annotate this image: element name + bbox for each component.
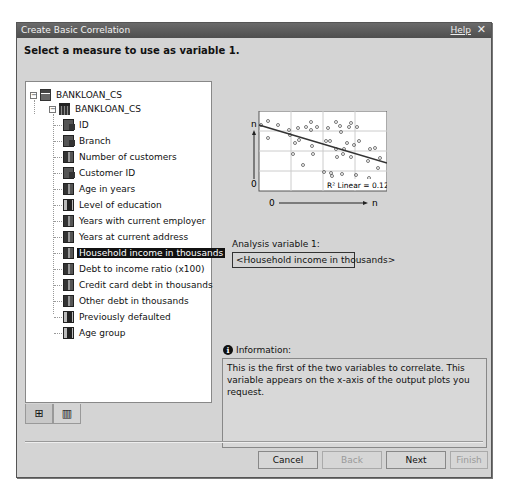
hierarchy-view-tab[interactable]: ⊞ <box>25 404 53 424</box>
table-view-icon: ▥ <box>62 407 72 420</box>
tree-item[interactable]: Household income in thousands <box>63 246 225 260</box>
numeric-variable-icon <box>63 247 74 259</box>
tree-connector <box>54 173 62 174</box>
tree-connector <box>54 269 62 270</box>
tree-connector <box>54 317 62 318</box>
numeric-variable-icon <box>63 151 74 163</box>
y-top-label: n <box>251 119 257 129</box>
tree-item[interactable]: Number of customers <box>63 150 179 164</box>
tree-view-tabs: ⊞ ▥ <box>25 404 81 426</box>
tree-item[interactable]: Branch <box>63 134 113 148</box>
r2-label: R² Linear = 0.123 <box>327 181 387 190</box>
analysis-variable-label: Analysis variable 1: <box>232 239 320 249</box>
x-left-label: 0 <box>269 198 275 208</box>
database-icon <box>40 89 51 101</box>
next-button[interactable]: Next <box>386 451 446 469</box>
tree-item[interactable]: Level of education <box>63 198 164 212</box>
tree-item-label: Customer ID <box>77 168 137 178</box>
tree-item[interactable]: Previously defaulted <box>63 310 173 324</box>
x-arrow-head <box>363 201 368 205</box>
table-icon <box>59 103 70 115</box>
tree-item[interactable]: Customer ID <box>63 166 137 180</box>
tree-connector <box>54 125 62 126</box>
finish-button[interactable]: Finish <box>450 451 488 469</box>
hierarchy-icon: ⊞ <box>34 407 43 420</box>
information-box: This is the first of the two variables t… <box>222 358 487 448</box>
tree-item[interactable]: ID <box>63 118 91 132</box>
tree-connector <box>54 221 62 222</box>
correlation-preview-plot: n 0 0 n R² Linear = 0.123 <box>237 111 387 221</box>
tree-item-label: Other debt in thousands <box>77 296 191 306</box>
title-bar: Create Basic Correlation Help ✕ <box>17 23 491 38</box>
tree-node-label: BANKLOAN_CS <box>73 104 143 114</box>
tree-item-label: Previously defaulted <box>77 312 173 322</box>
back-button[interactable]: Back <box>322 451 382 469</box>
tree-item-label: Branch <box>77 136 113 146</box>
tree-item-label: Debt to income ratio (x100) <box>77 264 206 274</box>
numeric-variable-icon <box>63 263 74 275</box>
numeric-variable-icon <box>63 183 74 195</box>
tree-item[interactable]: Other debt in thousands <box>63 294 191 308</box>
tree-item-label: Credit card debt in thousands <box>77 280 215 290</box>
variable-tree[interactable]: − BANKLOAN_CS − BANKLOAN_CS IDBranchNumb… <box>25 81 212 403</box>
tree-connector <box>54 237 62 238</box>
tree-item-label: Years with current employer <box>77 216 207 226</box>
tree-item-label: Household income in thousands <box>77 248 225 258</box>
tree-item-label: Years at current address <box>77 232 190 242</box>
tree-item-label: Level of education <box>77 200 164 210</box>
x-right-label: n <box>372 198 378 208</box>
tree-connector <box>34 100 35 114</box>
tree-node-label: BANKLOAN_CS <box>54 90 124 100</box>
analysis-variable-value: <Household income in thousands> <box>232 252 355 268</box>
character-variable-icon <box>63 135 74 147</box>
numeric-variable-icon <box>63 231 74 243</box>
page-heading: Select a measure to use as variable 1. <box>24 45 239 56</box>
collapse-icon[interactable]: − <box>49 106 56 113</box>
information-heading: i Information: <box>223 345 291 355</box>
y-bottom-label: 0 <box>251 179 257 189</box>
dialog-title: Create Basic Correlation <box>21 25 130 35</box>
tree-connector <box>53 114 54 314</box>
tree-item[interactable]: Years at current address <box>63 230 190 244</box>
tree-connector <box>54 333 62 334</box>
tree-item[interactable]: Debt to income ratio (x100) <box>63 262 206 276</box>
character-variable-icon <box>63 119 74 131</box>
category-variable-icon <box>63 327 74 339</box>
numeric-variable-icon <box>63 279 74 291</box>
tree-connector <box>54 301 62 302</box>
character-variable-icon <box>63 167 74 179</box>
tree-root-node[interactable]: − BANKLOAN_CS <box>30 88 124 102</box>
numeric-variable-icon <box>63 215 74 227</box>
tree-item[interactable]: Age group <box>63 326 127 340</box>
info-icon: i <box>223 345 233 355</box>
cancel-button[interactable]: Cancel <box>258 451 318 469</box>
create-basic-correlation-dialog: Create Basic Correlation Help ✕ Select a… <box>16 22 492 478</box>
information-label: Information: <box>236 345 291 355</box>
tree-connector <box>54 285 62 286</box>
tree-connector <box>54 205 62 206</box>
tree-item-label: Age group <box>77 328 127 338</box>
tree-item-label: ID <box>77 120 91 130</box>
tree-connector <box>54 157 62 158</box>
tree-connector <box>54 141 62 142</box>
tree-item-label: Age in years <box>77 184 137 194</box>
collapse-icon[interactable]: − <box>30 92 37 99</box>
tree-item[interactable]: Credit card debt in thousands <box>63 278 215 292</box>
tree-item[interactable]: Years with current employer <box>63 214 207 228</box>
tree-connector <box>54 189 62 190</box>
close-icon[interactable]: ✕ <box>477 23 486 36</box>
footer-separator <box>25 441 483 443</box>
tree-item-label: Number of customers <box>77 152 179 162</box>
category-variable-icon <box>63 311 74 323</box>
tree-table-node[interactable]: − BANKLOAN_CS <box>49 102 143 116</box>
table-view-tab[interactable]: ▥ <box>53 404 81 424</box>
help-link[interactable]: Help <box>450 25 471 35</box>
tree-connector <box>54 253 62 254</box>
numeric-variable-icon <box>63 295 74 307</box>
tree-item[interactable]: Age in years <box>63 182 137 196</box>
y-arrow-head <box>252 130 256 135</box>
category-variable-icon <box>63 199 74 211</box>
